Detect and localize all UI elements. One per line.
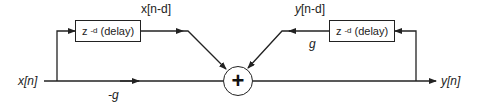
output-var: y	[441, 74, 447, 88]
feedback-index: [n-d]	[301, 2, 325, 16]
allpass-filter-diagram: x[n] z-d(delay) x[n-d] -g + y[n-d] g z-d…	[0, 0, 480, 105]
input-label: x[n]	[18, 75, 37, 87]
output-label: y[n]	[441, 75, 460, 87]
feedback-delayed-label: y[n-d]	[295, 3, 325, 15]
feedforward-delay-box: z-d(delay)	[75, 20, 141, 42]
feedback-delay-box: z-d(delay)	[329, 20, 395, 42]
feedback-gain-label: g	[309, 38, 316, 50]
direct-gain-label: -g	[108, 89, 119, 101]
delay-z: z	[336, 25, 342, 37]
input-index: n	[27, 74, 34, 88]
feedforward-delayed-label: x[n-d]	[141, 3, 171, 15]
delay-exponent: -d	[90, 26, 97, 35]
delay-suffix: (delay)	[101, 25, 135, 37]
delay-suffix: (delay)	[355, 25, 389, 37]
plus-icon: +	[232, 70, 245, 92]
delay-z: z	[82, 25, 88, 37]
summing-node: +	[223, 66, 253, 96]
delay-exponent: -d	[344, 26, 351, 35]
output-index: n	[450, 74, 457, 88]
input-var: x	[18, 74, 24, 88]
